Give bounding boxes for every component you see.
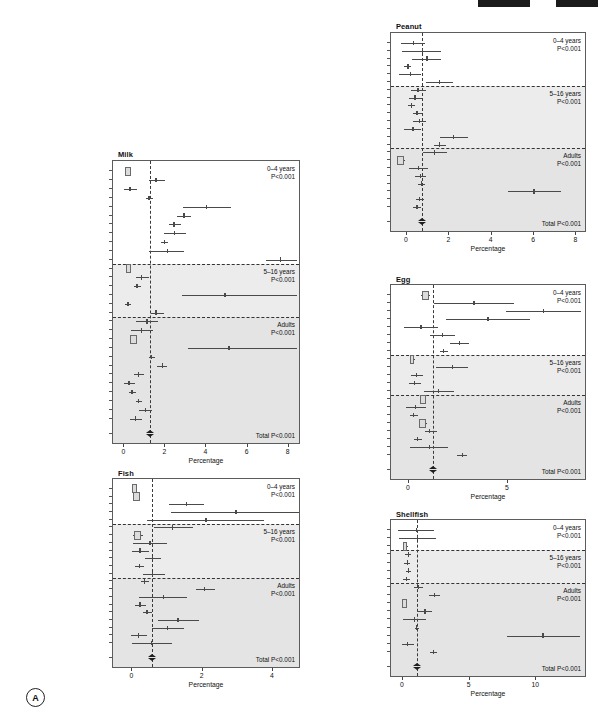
combined-diamond-bottom — [148, 658, 156, 661]
point-estimate — [417, 536, 418, 540]
group-pvalue: P<0.001 — [553, 45, 581, 53]
row-tick — [109, 373, 112, 374]
row-tick — [387, 294, 390, 295]
point-estimate — [152, 572, 153, 576]
row-tick — [387, 183, 390, 184]
row-tick — [109, 303, 112, 304]
x-tick-mark — [164, 444, 165, 447]
row-tick — [109, 329, 112, 330]
point-estimate — [406, 577, 407, 581]
point-estimate — [418, 166, 419, 170]
x-tick-mark — [123, 444, 124, 447]
weight-square — [133, 492, 139, 501]
point-estimate — [144, 579, 145, 583]
point-estimate — [424, 609, 425, 613]
x-axis-title: Percentage — [166, 682, 246, 689]
row-tick — [387, 406, 390, 407]
row-tick — [387, 382, 390, 383]
point-estimate — [443, 349, 444, 353]
point-estimate — [411, 103, 412, 107]
point-estimate — [419, 119, 420, 123]
point-estimate — [414, 95, 415, 99]
group-pvalue: P<0.001 — [549, 98, 581, 106]
group-label-text: 5–16 years — [263, 528, 295, 536]
x-tick-label: 2 — [190, 673, 214, 680]
total-pvalue: Total P<0.001 — [542, 469, 581, 475]
group-label-text: 0–4 years — [553, 289, 581, 297]
x-tick-mark — [247, 444, 248, 447]
group-label-text: Adults — [557, 587, 581, 595]
group-label: 0–4 yearsP<0.001 — [553, 37, 581, 53]
row-tick — [387, 537, 390, 538]
point-estimate — [412, 127, 413, 131]
row-tick — [387, 594, 390, 595]
row-tick — [109, 250, 112, 251]
group-separator — [391, 355, 585, 356]
row-tick — [109, 320, 112, 321]
row-tick — [109, 188, 112, 189]
point-estimate — [410, 72, 411, 76]
x-axis-title: Percentage — [448, 494, 528, 501]
row-tick — [387, 167, 390, 168]
x-tick-mark — [448, 232, 449, 235]
row-tick — [387, 398, 390, 399]
point-estimate — [148, 196, 149, 200]
point-estimate — [426, 56, 427, 60]
point-estimate — [419, 197, 420, 201]
row-tick — [109, 557, 112, 558]
row-tick — [387, 446, 390, 447]
x-tick-label: 6 — [521, 237, 545, 244]
row-tick — [387, 545, 390, 546]
row-tick — [109, 259, 112, 260]
row-tick — [387, 627, 390, 628]
point-estimate — [149, 541, 150, 545]
row-tick — [387, 151, 390, 152]
group-label: 0–4 yearsP<0.001 — [553, 289, 581, 305]
row-tick — [109, 565, 112, 566]
group-separator — [113, 524, 299, 525]
row-tick — [109, 488, 112, 489]
row-tick — [109, 356, 112, 357]
point-estimate — [205, 518, 206, 522]
point-estimate — [418, 585, 419, 589]
header-bar — [478, 0, 598, 7]
group-label-text: 5–16 years — [549, 359, 581, 367]
group-label: AdultsP<0.001 — [271, 321, 295, 337]
row-tick — [387, 454, 390, 455]
row-tick — [109, 400, 112, 401]
point-estimate — [204, 587, 205, 591]
point-estimate — [420, 325, 421, 329]
panel-title: Shellfish — [396, 510, 428, 519]
combined-diamond-top — [146, 430, 154, 433]
row-tick — [109, 642, 112, 643]
row-tick — [387, 81, 390, 82]
group-pvalue: P<0.001 — [271, 329, 295, 337]
point-estimate — [128, 381, 129, 385]
x-tick-label: 2 — [152, 449, 176, 456]
confidence-interval — [151, 313, 165, 314]
point-estimate — [434, 150, 435, 154]
reference-line — [150, 161, 151, 443]
point-estimate — [459, 341, 460, 345]
group-pvalue: P<0.001 — [267, 173, 295, 181]
point-estimate — [453, 135, 454, 139]
row-tick — [387, 414, 390, 415]
group-label-text: 0–4 years — [267, 165, 295, 173]
point-estimate — [167, 249, 168, 253]
row-tick — [387, 666, 390, 667]
row-tick — [109, 596, 112, 597]
group-pvalue: P<0.001 — [549, 562, 581, 570]
row-tick — [109, 382, 112, 383]
point-estimate — [416, 205, 417, 209]
reference-line — [417, 520, 418, 676]
point-estimate — [473, 301, 474, 305]
x-tick-mark — [507, 480, 508, 483]
point-estimate — [155, 178, 156, 182]
x-tick-label: 0 — [394, 237, 418, 244]
row-tick — [387, 58, 390, 59]
point-estimate — [414, 617, 415, 621]
x-tick-label: 2 — [436, 237, 460, 244]
point-estimate — [442, 333, 443, 337]
x-tick-mark — [491, 232, 492, 235]
x-tick-label: 0 — [390, 682, 414, 689]
